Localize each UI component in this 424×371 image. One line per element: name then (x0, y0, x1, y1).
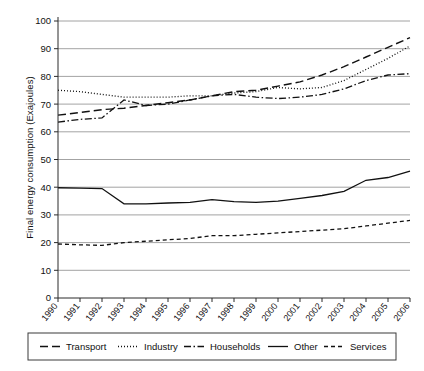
x-tick-label: 1993 (105, 301, 125, 323)
legend-label-services: Services (350, 341, 387, 352)
x-tick-label: 1998 (215, 301, 235, 323)
chart-legend: TransportIndustryHouseholdsOtherServices (28, 333, 396, 360)
legend-label-transport: Transport (66, 341, 107, 352)
x-tick-label: 1996 (171, 301, 191, 323)
gridlines-group (58, 21, 410, 270)
y-tick-label: 70 (40, 99, 51, 110)
axes-group (58, 17, 410, 298)
y-tick-label: 40 (40, 182, 51, 193)
x-tick-label: 1991 (61, 301, 81, 323)
x-tick-label: 2000 (259, 301, 279, 323)
x-tick-label: 2005 (369, 301, 389, 323)
y-tick-label: 50 (40, 154, 51, 165)
line-chart-plot: 0102030405060708090100 19901991199219931… (0, 0, 424, 371)
y-tick-label: 90 (40, 43, 51, 54)
x-tick-label: 1999 (237, 301, 257, 323)
chart-container: Final energy consumption (Exajoules) 010… (0, 0, 424, 371)
y-tick-label: 60 (40, 126, 51, 137)
legend-label-households: Households (210, 341, 260, 352)
y-tick-label: 20 (40, 237, 51, 248)
x-tick-label: 2003 (325, 301, 345, 323)
legend-label-other: Other (294, 341, 318, 352)
x-tick-label: 1997 (193, 301, 213, 323)
x-tick-label: 1992 (83, 301, 103, 323)
y-tick-label: 100 (35, 15, 51, 26)
x-tick-label: 2001 (281, 301, 301, 323)
y-axis-ticks-group: 0102030405060708090100 (35, 15, 58, 303)
x-tick-label: 2004 (347, 301, 367, 323)
y-tick-label: 80 (40, 71, 51, 82)
y-tick-label: 10 (40, 265, 51, 276)
legend-label-industry: Industry (144, 341, 178, 352)
x-tick-label: 2006 (391, 301, 411, 323)
x-tick-label: 1994 (127, 301, 147, 323)
x-axis-ticks-group: 1990199119921993199419951996199719981999… (39, 298, 411, 323)
series-line-households (58, 74, 410, 122)
x-tick-label: 2002 (303, 301, 323, 323)
series-group (58, 38, 410, 246)
series-line-industry (58, 46, 410, 97)
series-line-services (58, 220, 410, 245)
x-tick-label: 1990 (39, 301, 59, 323)
y-axis-title: Final energy consumption (Exajoules) (24, 33, 35, 283)
y-tick-label: 30 (40, 209, 51, 220)
x-tick-label: 1995 (149, 301, 169, 323)
